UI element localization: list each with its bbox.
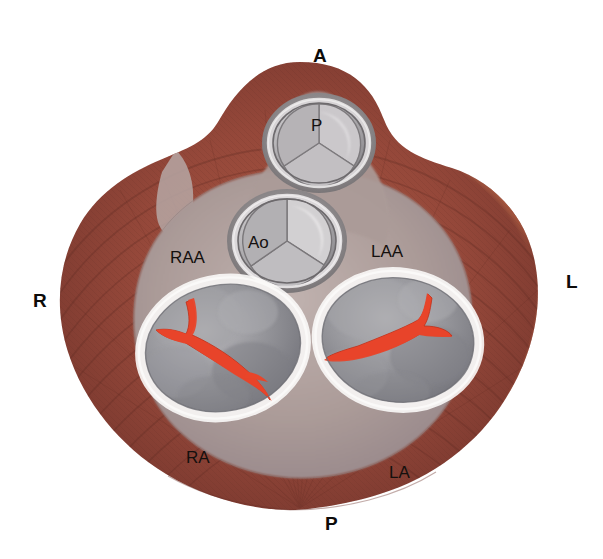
label-right-atrial-appendage: RAA	[170, 249, 205, 266]
label-left-atrial-appendage: LAA	[371, 243, 403, 260]
orientation-marker-anterior: A	[313, 46, 327, 65]
label-left-atrium: LA	[389, 464, 410, 481]
orientation-marker-right: R	[33, 291, 47, 310]
pulmonary-valve	[262, 93, 376, 193]
heart-base-diagram	[0, 0, 603, 559]
label-aortic-valve: Ao	[248, 234, 269, 251]
label-right-atrium: RA	[186, 449, 210, 466]
label-pulmonary-valve: P	[311, 117, 322, 134]
cardiac-illustration-figure: A R L P P Ao RAA LAA RA LA	[0, 0, 603, 559]
orientation-marker-left: L	[566, 272, 578, 291]
orientation-marker-posterior: P	[325, 514, 338, 533]
